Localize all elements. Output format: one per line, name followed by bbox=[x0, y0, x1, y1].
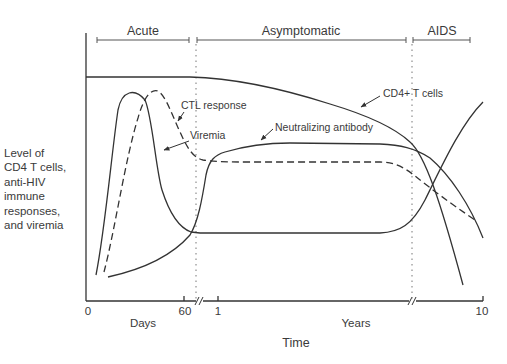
series-cd4-t-cells bbox=[86, 77, 463, 285]
annotation-cd4-t-cells: CD4+ T cells bbox=[383, 87, 443, 99]
hiv-course-chart: Acute Asymptomatic AIDS 0 60 1 10 Days Y… bbox=[0, 0, 507, 364]
series-neutralizing-antibody bbox=[108, 143, 483, 277]
phase-label-asymptomatic: Asymptomatic bbox=[262, 24, 341, 38]
annotation-viremia: Viremia bbox=[190, 129, 226, 141]
arrow-ctl-icon bbox=[178, 112, 184, 121]
annotation-ctl-response: CTL response bbox=[181, 99, 247, 111]
arrow-viremia-icon bbox=[164, 141, 189, 150]
x-tick-0: 0 bbox=[85, 305, 91, 317]
arrow-nab-icon bbox=[261, 129, 273, 140]
x-unit-days: Days bbox=[130, 317, 156, 329]
x-tick-10: 10 bbox=[476, 305, 489, 317]
x-unit-years: Years bbox=[342, 317, 371, 329]
axes bbox=[86, 33, 483, 301]
phase-label-acute: Acute bbox=[127, 24, 159, 38]
annotation-neutralizing-antibody: Neutralizing antibody bbox=[275, 121, 374, 133]
arrow-cd4-icon bbox=[361, 96, 380, 107]
x-axis-title: Time bbox=[282, 336, 309, 350]
x-tick-1: 1 bbox=[215, 305, 221, 317]
phase-label-aids: AIDS bbox=[427, 24, 456, 38]
phase-dividers bbox=[196, 44, 412, 300]
x-tick-60: 60 bbox=[179, 305, 192, 317]
